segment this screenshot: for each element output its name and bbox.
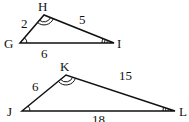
angle-mark-g [25, 38, 28, 43]
side-label-hi: 5 [79, 12, 86, 27]
triangle-jkl-outline [22, 75, 175, 111]
vertex-label-l: L [179, 104, 187, 119]
side-label-gh: 2 [21, 16, 28, 31]
triangle-ghi: H G I 2 5 6 [4, 0, 121, 61]
vertex-label-h: H [38, 0, 47, 14]
side-label-jk: 6 [32, 79, 39, 94]
vertex-label-i: I [117, 36, 121, 51]
similar-triangles-diagram: H G I 2 5 6 K J L 6 15 18 [0, 0, 189, 122]
side-label-gi: 6 [41, 46, 48, 61]
vertex-label-j: J [7, 104, 12, 119]
triangle-ghi-outline [20, 15, 114, 43]
triangle-jkl: K J L 6 15 18 [7, 59, 187, 122]
vertex-label-k: K [60, 59, 70, 74]
side-label-kl: 15 [119, 68, 132, 83]
vertex-label-g: G [4, 36, 13, 51]
side-label-jl: 18 [92, 112, 105, 122]
